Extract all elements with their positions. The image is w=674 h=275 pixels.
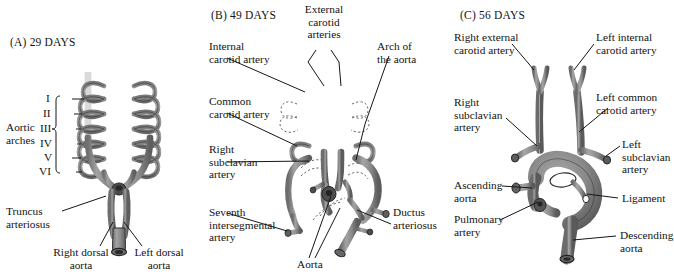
aortic-arches-brace bbox=[52, 96, 60, 173]
roman-numeral-I: I bbox=[46, 92, 50, 104]
panel-c-leader-lines bbox=[500, 44, 620, 240]
left-common-carotid-artery-label: Left common carotid artery bbox=[596, 91, 657, 116]
truncus-arteriosus-label: Truncus arteriosus bbox=[6, 205, 50, 230]
right-subclavian-artery-label: Right subclavian artery bbox=[209, 143, 257, 181]
ductus-arteriosus-label: Ductus arteriosus bbox=[393, 206, 437, 231]
panel-b-vessels bbox=[285, 78, 389, 258]
aorta-label: Aorta bbox=[297, 258, 323, 271]
roman-numeral-VI: VI bbox=[39, 165, 51, 177]
left-subclavian-artery-label: Left subclavian artery bbox=[622, 138, 670, 176]
seventh-intersegmental-artery-label: Seventh intersegmental artery bbox=[209, 206, 276, 244]
aortic-arches-label: Aortic arches bbox=[6, 121, 35, 146]
roman-numeral-IV: IV bbox=[40, 137, 52, 149]
right-external-carotid-artery-label: Right external carotid artery bbox=[454, 31, 518, 56]
roman-numeral-III: III bbox=[40, 122, 51, 134]
descending-aorta-label: Descending aorta bbox=[620, 229, 673, 254]
pulmonary-artery-label: Pulmonary artery bbox=[454, 213, 504, 238]
panel-a-vessels bbox=[79, 72, 159, 256]
arch-of-the-aorta-label: Arch of the aorta bbox=[377, 40, 416, 65]
right-dorsal-aorta-label: Right dorsal aorta bbox=[42, 246, 120, 271]
panel-b-49-days: (B) 49 DAYS bbox=[205, 0, 440, 275]
roman-numeral-II: II bbox=[43, 107, 51, 119]
internal-carotid-artery-label: Internal carotid artery bbox=[209, 40, 270, 65]
panel-a-29-days: (A) 29 DAYS bbox=[0, 0, 205, 275]
panel-c-56-days: (C) 56 DAYS bbox=[440, 0, 674, 275]
ascending-aorta-label: Ascending aorta bbox=[454, 179, 502, 204]
common-carotid-artery-label: Common carotid artery bbox=[209, 95, 270, 120]
roman-numeral-V: V bbox=[44, 151, 52, 163]
left-dorsal-aorta-label: Left dorsal aorta bbox=[123, 246, 195, 271]
external-carotid-arteries-label: External carotid arteries bbox=[293, 3, 355, 41]
right-subclavian-artery-label-c: Right subclavian artery bbox=[454, 96, 502, 134]
ligament-label: Ligament bbox=[622, 192, 665, 205]
aortic-arch-development-figure: (A) 29 DAYS bbox=[0, 0, 674, 275]
left-internal-carotid-artery-label: Left internal carotid artery bbox=[596, 31, 657, 56]
